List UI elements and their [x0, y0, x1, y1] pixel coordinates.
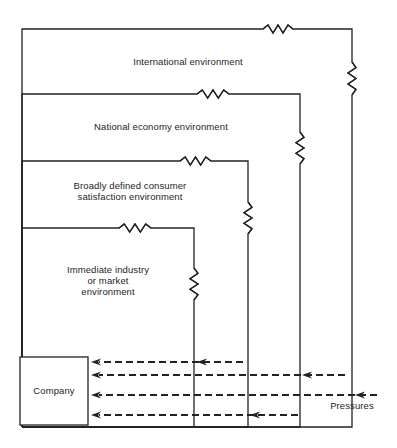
label-line: satisfaction environment [66, 191, 194, 202]
label-consumer-satisfaction-environment: Broadly defined consumer satisfaction en… [66, 180, 194, 202]
pressure-arrow [91, 392, 377, 399]
label-line: Immediate industry [60, 264, 156, 275]
pressure-arrow [91, 372, 345, 379]
resistor-icon [296, 132, 304, 164]
company-label: Company [20, 385, 88, 396]
resistor-icon [197, 90, 229, 98]
label-line: National economy environment [86, 121, 236, 132]
label-line: International environment [126, 56, 250, 67]
label-line: Broadly defined consumer [66, 180, 194, 191]
resistor-icon [180, 157, 211, 165]
label-company: Company [20, 385, 88, 396]
pressure-arrow [91, 359, 243, 366]
label-line: environment [60, 286, 156, 297]
resistor-icon [244, 202, 252, 234]
label-international-environment: International environment [126, 56, 250, 67]
resistor-icon [348, 62, 356, 95]
environment-diagram [0, 0, 397, 448]
label-national-economy-environment: National economy environment [86, 121, 236, 132]
label-immediate-industry-environment: Immediate industry or market environment [60, 264, 156, 297]
resistor-icon [190, 268, 198, 300]
label-pressures: Pressures [328, 400, 376, 411]
resistor-icon [119, 224, 151, 232]
label-line: or market [60, 275, 156, 286]
pressures-label: Pressures [328, 400, 376, 411]
resistor-icon [263, 25, 293, 33]
